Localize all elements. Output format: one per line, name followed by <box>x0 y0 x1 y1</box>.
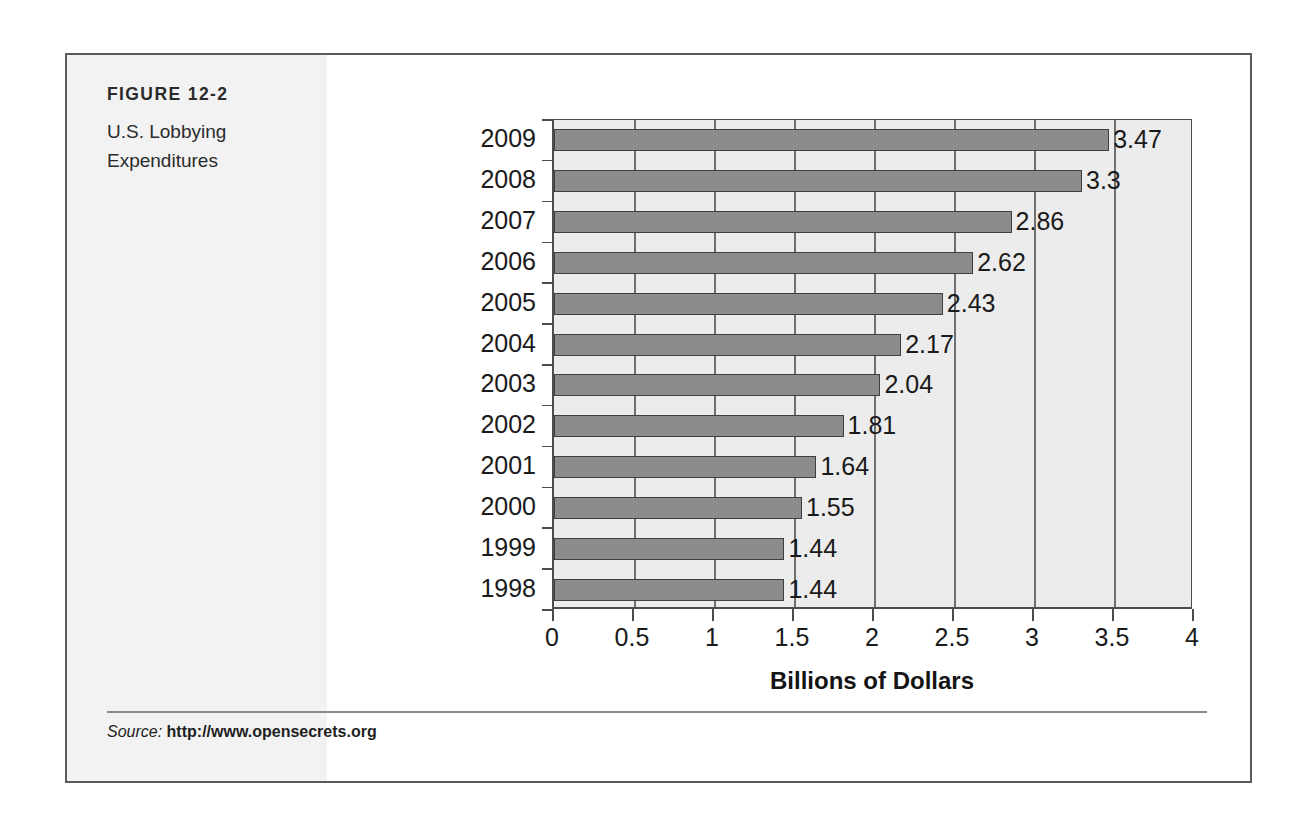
bar <box>554 415 844 437</box>
bar-row: 3.47 <box>554 120 1191 161</box>
bar <box>554 129 1109 151</box>
y-axis-tick <box>542 160 552 162</box>
bar-chart: 3.473.32.862.622.432.172.041.811.641.551… <box>422 107 1212 707</box>
y-axis-tick-label: 2006 <box>480 247 536 276</box>
y-axis-tick <box>542 282 552 284</box>
x-axis-tick <box>952 609 954 621</box>
y-axis-tick-label: 2007 <box>480 206 536 235</box>
bar-value-label: 2.62 <box>973 248 1026 277</box>
y-axis-tick-label: 1999 <box>480 533 536 562</box>
x-axis-tick <box>792 609 794 621</box>
bar <box>554 334 901 356</box>
x-axis-tick-label: 2 <box>865 623 879 652</box>
bar <box>554 374 880 396</box>
bar-row: 1.44 <box>554 528 1191 569</box>
x-axis-tick-label: 1 <box>705 623 719 652</box>
bar <box>554 497 802 519</box>
bar-row: 2.17 <box>554 324 1191 365</box>
x-axis-tick <box>1192 609 1194 621</box>
y-axis-tick <box>542 568 552 570</box>
y-axis-tick-label: 2002 <box>480 410 536 439</box>
bar <box>554 293 943 315</box>
bar-value-label: 1.55 <box>802 493 855 522</box>
bar <box>554 456 816 478</box>
bar-row: 2.04 <box>554 365 1191 406</box>
bar <box>554 579 784 601</box>
bar-value-label: 1.81 <box>844 411 897 440</box>
bar <box>554 211 1012 233</box>
y-axis-tick <box>542 242 552 244</box>
y-axis-tick <box>542 609 552 611</box>
bar-value-label: 2.04 <box>880 370 933 399</box>
plot-area: 3.473.32.862.622.432.172.041.811.641.551… <box>552 119 1192 609</box>
figure-title-line2: Expenditures <box>107 146 337 175</box>
y-axis-tick-label: 2009 <box>480 124 536 153</box>
source-note: Source: http://www.opensecrets.org <box>107 723 377 741</box>
figure-number: FIGURE 12-2 <box>107 84 337 105</box>
x-axis-title: Billions of Dollars <box>552 667 1192 695</box>
bar <box>554 538 784 560</box>
source-divider <box>107 711 1207 713</box>
bar-row: 3.3 <box>554 161 1191 202</box>
bar-value-label: 3.47 <box>1109 125 1162 154</box>
x-axis-tick-label: 0 <box>545 623 559 652</box>
figure-title-line1: U.S. Lobbying <box>107 117 337 146</box>
bar-row: 2.86 <box>554 202 1191 243</box>
bar-row: 1.81 <box>554 406 1191 447</box>
y-axis-tick-label: 2004 <box>480 328 536 357</box>
y-axis-tick <box>542 201 552 203</box>
y-axis-tick-label: 2001 <box>480 451 536 480</box>
y-axis-tick <box>542 119 552 121</box>
figure-frame: FIGURE 12-2 U.S. Lobbying Expenditures 3… <box>65 53 1252 783</box>
source-label: Source: <box>107 723 162 740</box>
bar-row: 1.44 <box>554 569 1191 610</box>
x-axis-tick <box>632 609 634 621</box>
y-axis-tick-label: 2000 <box>480 492 536 521</box>
bar-row: 1.55 <box>554 488 1191 529</box>
bar-value-label: 1.64 <box>816 452 869 481</box>
bar-row: 2.43 <box>554 283 1191 324</box>
bar-value-label: 2.17 <box>901 329 954 358</box>
bar <box>554 170 1082 192</box>
y-axis-tick <box>542 364 552 366</box>
x-axis-tick-label: 2.5 <box>935 623 970 652</box>
source-url: http://www.opensecrets.org <box>167 723 377 740</box>
page-title: U.S. Lobbying Expenditures <box>107 117 337 176</box>
x-axis-tick-label: 3 <box>1025 623 1039 652</box>
figure-caption: FIGURE 12-2 U.S. Lobbying Expenditures <box>107 84 337 176</box>
y-axis-tick-label: 2008 <box>480 165 536 194</box>
x-axis-tick <box>872 609 874 621</box>
y-axis-tick-label: 2005 <box>480 288 536 317</box>
bar-value-label: 2.43 <box>943 289 996 318</box>
bar-row: 2.62 <box>554 243 1191 284</box>
y-axis-tick-label: 2003 <box>480 369 536 398</box>
bar-value-label: 1.44 <box>784 574 837 603</box>
x-axis-tick <box>712 609 714 621</box>
bar-value-label: 3.3 <box>1082 166 1121 195</box>
x-axis-tick <box>552 609 554 621</box>
y-axis-tick <box>542 405 552 407</box>
x-axis-tick <box>1032 609 1034 621</box>
y-axis-tick <box>542 323 552 325</box>
bar-value-label: 1.44 <box>784 534 837 563</box>
x-axis-tick-label: 1.5 <box>775 623 810 652</box>
y-axis-tick-label: 1998 <box>480 573 536 602</box>
y-axis-tick <box>542 527 552 529</box>
x-axis-tick-label: 3.5 <box>1095 623 1130 652</box>
bar <box>554 252 973 274</box>
bar-row: 1.64 <box>554 447 1191 488</box>
bar-value-label: 2.86 <box>1012 207 1065 236</box>
y-axis-tick <box>542 487 552 489</box>
y-axis-tick <box>542 446 552 448</box>
x-axis-tick-label: 0.5 <box>615 623 650 652</box>
x-axis-tick <box>1112 609 1114 621</box>
x-axis-tick-label: 4 <box>1185 623 1199 652</box>
